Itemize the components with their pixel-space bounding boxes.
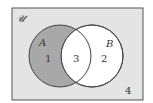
venn-diagram: 𝒰 A B 1 3 2 4: [0, 0, 153, 103]
set-a-label: A: [38, 37, 46, 48]
set-b-label: B: [105, 38, 113, 49]
region-intersection-label: 3: [73, 53, 79, 64]
region-b-only-label: 2: [101, 53, 107, 64]
region-a-only-label: 1: [45, 53, 51, 64]
region-outside-label: 4: [125, 85, 131, 96]
